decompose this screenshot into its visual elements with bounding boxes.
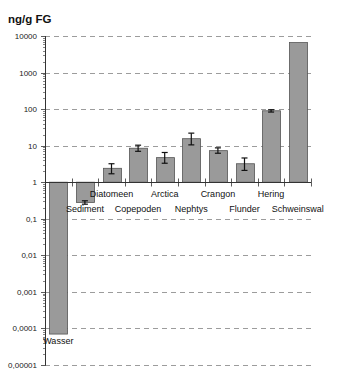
category-label-arctica: Arctica <box>151 189 179 199</box>
bar-flunder <box>237 164 255 182</box>
y-tick-label: 0,00001 <box>8 360 37 369</box>
category-label-hering: Hering <box>258 189 285 199</box>
category-label-crangon: Crangon <box>201 189 236 199</box>
category-label-copepoden: Copepoden <box>115 204 162 214</box>
category-label-diatomeen: Diatomeen <box>90 189 134 199</box>
y-tick-label: 0,1 <box>26 214 37 223</box>
category-label-sediment: Sediment <box>66 204 104 214</box>
y-tick-label: 1 <box>33 178 37 187</box>
category-label-schweinswal: Schweinswal <box>272 204 324 214</box>
bar-schweinswal <box>290 43 308 183</box>
bar-hering <box>263 111 281 182</box>
y-tick-label: 10000 <box>15 32 37 41</box>
log-bar-chart: ng/g FG 1000010001001010,10,010,0010,000… <box>0 0 337 383</box>
category-label-wasser: Wasser <box>43 336 73 346</box>
y-tick-label: 10 <box>28 141 37 150</box>
y-tick-label: 0,01 <box>21 251 37 260</box>
bar-crangon <box>210 151 228 183</box>
bar-arctica <box>157 158 175 183</box>
y-tick-label: 1000 <box>19 68 37 77</box>
bar-copepoden <box>130 148 148 182</box>
category-label-nephtys: Nephtys <box>175 204 208 214</box>
bar-diatomeen <box>104 168 122 182</box>
bar-wasser <box>50 182 68 334</box>
y-tick-label: 100 <box>24 105 37 114</box>
y-tick-label: 0,0001 <box>13 324 37 333</box>
category-label-flunder: Flunder <box>229 204 260 214</box>
y-tick-label: 0,001 <box>17 287 37 296</box>
